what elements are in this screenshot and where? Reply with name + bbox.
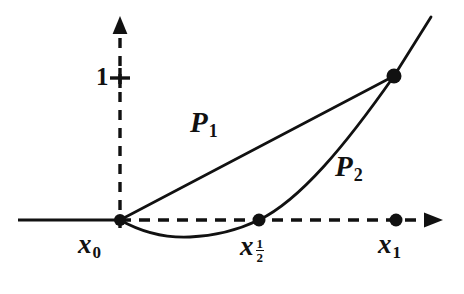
math-figure: 1 x0 x12 x1 P1 P2 xyxy=(0,0,464,294)
x-axis-arrowhead-icon xyxy=(424,213,443,228)
point-label-x1-base: x xyxy=(378,229,392,259)
point-marker-x-half[interactable] xyxy=(253,214,266,227)
curves-group xyxy=(120,17,431,237)
fraction-numerator: 1 xyxy=(256,237,265,251)
fraction-denominator: 2 xyxy=(256,251,265,264)
point-label-x0-base: x xyxy=(78,229,92,259)
point-label-x-half-base: x xyxy=(240,231,254,261)
point-marker-interpolation-endpoint[interactable] xyxy=(387,69,402,84)
curve-label-p2-base: P xyxy=(335,150,353,182)
point-label-x0-subscript: 0 xyxy=(93,243,102,262)
point-marker-x0[interactable] xyxy=(114,214,126,226)
point-label-x-half-subscript-fraction: 12 xyxy=(256,237,265,265)
axes-group xyxy=(18,16,443,228)
point-label-x1: x1 xyxy=(378,231,401,261)
curve-label-p1: P1 xyxy=(190,108,218,140)
curve-label-p2-subscript: 2 xyxy=(354,165,363,185)
curve-label-p1-base: P xyxy=(190,106,208,138)
point-marker-x1[interactable] xyxy=(390,214,403,227)
curve-p1 xyxy=(120,76,394,220)
curve-label-p2: P2 xyxy=(335,152,363,184)
curve-p2 xyxy=(120,17,431,237)
y-axis-arrowhead-icon xyxy=(113,16,128,34)
point-label-x0: x0 xyxy=(78,231,101,261)
point-label-x1-subscript: 1 xyxy=(393,243,402,262)
curve-label-p1-subscript: 1 xyxy=(209,121,218,141)
y-axis-tick-label-one: 1 xyxy=(96,64,109,89)
point-label-x-half: x12 xyxy=(240,233,264,264)
